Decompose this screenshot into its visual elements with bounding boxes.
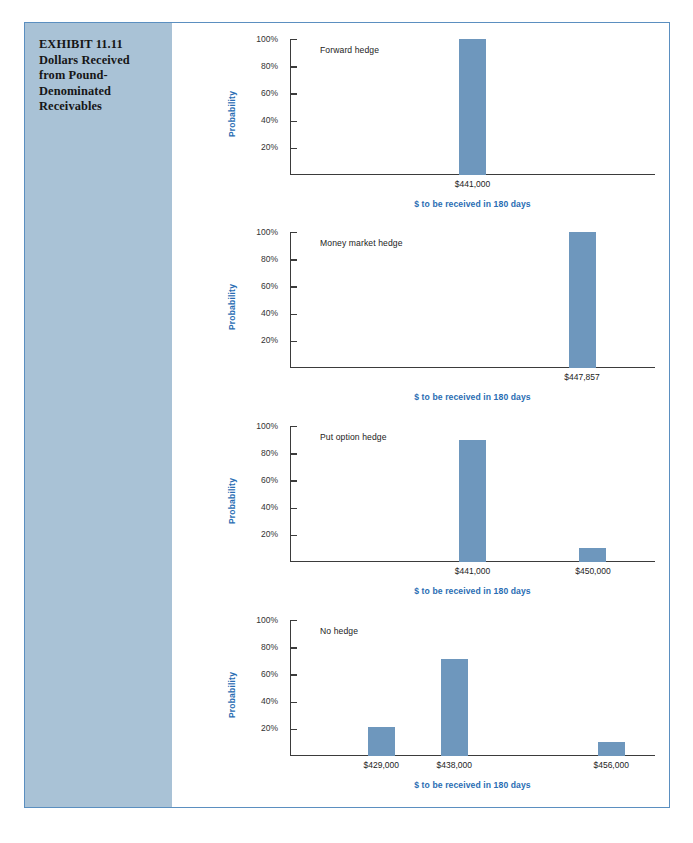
x-category-label: $441,000 xyxy=(455,179,490,189)
chart-0: Probability20%40%60%80%100%Forward hedge… xyxy=(172,25,671,215)
bar xyxy=(459,39,486,175)
bar xyxy=(569,232,596,368)
bar xyxy=(368,727,395,756)
x-axis-title: $ to be received in 180 days xyxy=(290,199,655,209)
exhibit-frame: EXHIBIT 11.11 Dollars Received from Poun… xyxy=(24,22,670,808)
chart-3: Probability20%40%60%80%100%No hedge$429,… xyxy=(172,606,671,796)
y-tick-label: 60% xyxy=(234,282,278,291)
x-axis-title: $ to be received in 180 days xyxy=(290,586,655,596)
y-tick-label: 40% xyxy=(234,697,278,706)
x-category-label: $441,000 xyxy=(455,566,490,576)
y-tick-label: 60% xyxy=(234,670,278,679)
x-category-label: $456,000 xyxy=(593,760,628,770)
bars-layer xyxy=(290,39,655,175)
x-category-label: $429,000 xyxy=(364,760,399,770)
y-tick-label: 80% xyxy=(234,643,278,652)
x-category-label: $447,857 xyxy=(564,372,599,382)
exhibit-caption-panel: EXHIBIT 11.11 Dollars Received from Poun… xyxy=(25,23,172,807)
chart-1: Probability20%40%60%80%100%Money market … xyxy=(172,218,671,408)
bar xyxy=(598,742,625,756)
x-category-label: $450,000 xyxy=(575,566,610,576)
bars-layer xyxy=(290,620,655,756)
y-tick-label: 20% xyxy=(234,143,278,152)
y-tick-label: 20% xyxy=(234,336,278,345)
chart-2: Probability20%40%60%80%100%Put option he… xyxy=(172,412,671,602)
y-tick-label: 40% xyxy=(234,503,278,512)
y-tick-label: 80% xyxy=(234,62,278,71)
y-tick-label: 100% xyxy=(234,422,278,431)
y-tick-label: 80% xyxy=(234,255,278,264)
bar xyxy=(459,440,486,562)
bars-layer xyxy=(290,232,655,368)
y-tick-label: 80% xyxy=(234,449,278,458)
y-tick-label: 40% xyxy=(234,309,278,318)
y-tick-label: 100% xyxy=(234,35,278,44)
y-tick-label: 100% xyxy=(234,616,278,625)
x-axis-title: $ to be received in 180 days xyxy=(290,392,655,402)
bar xyxy=(579,548,606,562)
x-category-label: $438,000 xyxy=(437,760,472,770)
y-tick-label: 40% xyxy=(234,116,278,125)
x-axis-title: $ to be received in 180 days xyxy=(290,780,655,790)
y-tick-label: 100% xyxy=(234,228,278,237)
bar xyxy=(441,659,468,756)
bars-layer xyxy=(290,426,655,562)
y-tick-label: 60% xyxy=(234,89,278,98)
exhibit-caption-text: EXHIBIT 11.11 Dollars Received from Poun… xyxy=(39,37,161,115)
y-tick-label: 60% xyxy=(234,476,278,485)
y-tick-label: 20% xyxy=(234,724,278,733)
y-tick-label: 20% xyxy=(234,530,278,539)
